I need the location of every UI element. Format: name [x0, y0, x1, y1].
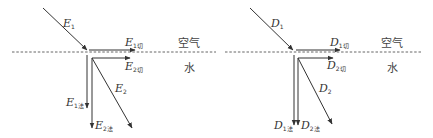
field-vectors-diagram: E1 E1切 E2切 E1法 E2法 E2 空气 水 D1 D1切 D2切 D1… [0, 0, 433, 138]
medium-label-water: 水 [184, 62, 195, 75]
label-d2-normal: D2法 [300, 119, 320, 133]
e-field-diagram: E1 E1切 E2切 E1法 E2法 E2 空气 水 [12, 8, 216, 133]
label-d1-normal: D1法 [273, 119, 293, 133]
label-d2: D2 [318, 82, 332, 95]
medium-label-air: 空气 [381, 36, 403, 50]
d-field-diagram: D1 D1切 D2切 D1法 D2法 D2 空气 水 [225, 8, 422, 133]
label-e2-normal: E2法 [94, 119, 113, 133]
label-e1-tangential: E1切 [124, 36, 143, 50]
medium-label-air: 空气 [178, 36, 200, 50]
label-e1-normal: E1法 [65, 96, 84, 110]
label-d2-tangential: D2切 [326, 59, 346, 73]
label-e2-tangential: E2切 [124, 60, 143, 74]
label-d1: D1 [270, 17, 284, 30]
label-d1-tangential: D1切 [329, 36, 349, 50]
label-e1: E1 [62, 17, 75, 30]
label-e2: E2 [114, 82, 127, 95]
medium-label-water: 水 [387, 62, 398, 75]
